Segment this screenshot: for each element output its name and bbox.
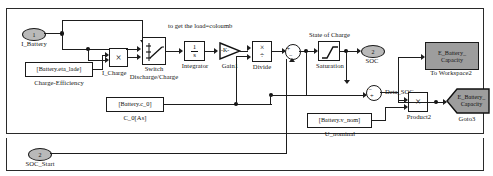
u-nominal-caption: U_nominal — [306, 130, 374, 137]
u-nominal-text: [Battery.v_nom] — [319, 117, 360, 124]
wire-top-rail — [62, 20, 143, 21]
inport-i-battery-label: I_Battery — [8, 40, 60, 47]
goto3-block[interactable]: E_Battery_ Capacity — [446, 88, 490, 114]
i-charge-product-symbol: × — [116, 53, 122, 63]
gain1-caption: Gain1 — [212, 62, 248, 69]
charge-efficiency-caption: Charge-Efficiency — [18, 79, 100, 86]
wire-c0-to-divide — [236, 56, 249, 57]
state-of-charge-comment-text: State of Charge — [309, 31, 350, 38]
wire-c0-right-up — [270, 95, 271, 104]
switch-caption-2: Discharge/Charge — [123, 73, 185, 80]
integrator-caption: Integrator — [176, 62, 214, 69]
goto3-caption: Goto3 — [444, 115, 490, 122]
simulink-diagram-canvas: to get the load=coloumb State of Charge … — [0, 0, 493, 176]
wire-unom-up — [385, 107, 386, 120]
arrow-integrator-in — [179, 48, 183, 54]
arrow-divide-in1 — [247, 45, 251, 51]
saturation-block[interactable] — [318, 41, 340, 61]
charge-efficiency-block[interactable]: [Battery.eta_lade] — [25, 62, 93, 77]
delta-soc-sum-plus: + — [370, 93, 374, 100]
i-charge-product-block[interactable]: × — [109, 48, 128, 67]
wire-soc-to-deltasum — [306, 50, 307, 95]
integrator-block[interactable]: 1 s — [184, 41, 205, 61]
wire-unom-out — [372, 120, 386, 121]
u-nominal-block[interactable]: [Battery.v_nom] — [307, 113, 372, 128]
wire-eta-up — [102, 55, 103, 69]
goto3-text: E_Battery_ Capacity — [446, 88, 490, 114]
inport-soc-start-number: 2 — [39, 152, 42, 158]
divide-op-divide: ÷ — [260, 52, 264, 60]
arrow-deltasum-in2 — [344, 80, 350, 84]
integrator-symbol: 1 s — [191, 44, 199, 59]
to-workspace2-text: E_Battery_ Capacity — [438, 49, 466, 63]
goto3-line1: E_Battery_ — [458, 94, 486, 100]
saturation-icon — [319, 42, 341, 62]
switch-caption: Switch — [134, 65, 174, 72]
divide-block[interactable]: × ÷ — [252, 41, 272, 62]
switch-icon — [143, 38, 167, 66]
divide-symbols: × ÷ — [260, 44, 264, 59]
wire-sat-down — [346, 50, 347, 82]
wire-switch-out — [166, 51, 180, 52]
to-workspace2-line1: E_Battery_ — [438, 49, 466, 56]
divide-caption: Divide — [246, 63, 278, 70]
to-workspace2-caption: To Workspace2 — [420, 69, 482, 76]
load-comment-text: to get the load=coloumb — [168, 22, 232, 29]
gain1-block[interactable]: -K- — [219, 42, 241, 60]
arrow-switch-in3 — [137, 54, 141, 60]
wire-socstart-up — [286, 59, 287, 154]
wire-socstart-out — [50, 153, 287, 154]
wire-deltasum-out — [380, 92, 399, 93]
wire-ibattery-down — [62, 33, 63, 50]
inport-soc-start-label: SOC_Start — [14, 160, 66, 167]
inport-i-battery-number: 1 — [33, 32, 36, 38]
goto3-text-inner: E_Battery_ Capacity — [458, 94, 486, 107]
switch-block[interactable] — [142, 37, 166, 65]
wire-ibattery-top-rail — [62, 20, 63, 33]
wire-soc-left-branch — [271, 95, 307, 96]
outport-soc-number: 2 — [372, 49, 375, 55]
integrator-denominator: s — [191, 52, 199, 59]
wire-product2-up-h — [398, 102, 436, 103]
subsystem-frame-bottom — [6, 138, 484, 171]
c0-constant-text: [Battery.c_0] — [119, 101, 152, 108]
c0-constant-block[interactable]: [Battery.c_0] — [106, 97, 164, 112]
outport-soc-label: SOC — [352, 57, 392, 64]
to-workspace2-block[interactable]: E_Battery_ Capacity — [425, 42, 479, 70]
wire-soc-to-deltasum-h — [306, 95, 366, 96]
arrow-sum-in2 — [289, 58, 295, 62]
saturation-caption: Saturation — [310, 62, 350, 69]
charge-efficiency-text: [Battery.eta_lade] — [37, 66, 82, 73]
wire-to-workspace — [398, 57, 422, 58]
gain1-value: -K- — [221, 47, 229, 53]
product2-caption: Product2 — [400, 113, 438, 120]
c0-constant-caption: C_0[As] — [104, 114, 166, 121]
wire-switch-in2 — [126, 49, 138, 50]
goto3-line2: Capacity — [461, 101, 483, 107]
to-workspace2-line2: Capacity — [441, 56, 463, 63]
wire-c0-out — [164, 104, 272, 105]
wire-product2-up — [398, 57, 399, 102]
arrow-gain1-in — [214, 48, 218, 54]
wire-unom-to-prod — [385, 107, 405, 108]
wire-c0-up — [236, 56, 237, 104]
